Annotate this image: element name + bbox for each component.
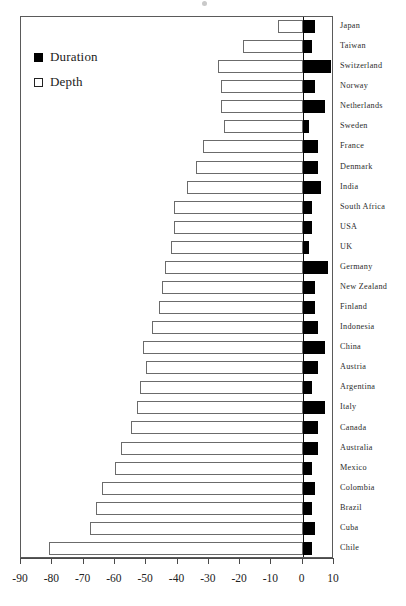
bar-row	[21, 278, 332, 298]
depth-bar	[137, 401, 303, 414]
category-label: Finland	[340, 302, 367, 311]
duration-bar	[303, 181, 322, 194]
x-tick	[270, 558, 271, 564]
legend-swatch-depth-icon	[34, 78, 43, 87]
depth-bar	[162, 281, 303, 294]
x-tick-label: -10	[263, 572, 278, 584]
x-tick-label: -80	[44, 572, 59, 584]
legend-label-duration: Duration	[50, 49, 98, 65]
bar-row	[21, 198, 332, 218]
bar-row	[21, 539, 332, 559]
depth-bar	[152, 321, 302, 334]
x-tick-label: -70	[75, 572, 90, 584]
legend-item-depth: Depth	[34, 72, 164, 92]
bar-row	[21, 519, 332, 539]
x-tick-label: 10	[327, 572, 339, 584]
category-label: Italy	[340, 402, 357, 411]
x-tick	[177, 558, 178, 564]
bar-row	[21, 439, 332, 459]
bar-row	[21, 338, 332, 358]
depth-bar	[146, 361, 303, 374]
category-label: Norway	[340, 81, 368, 90]
depth-bar	[218, 60, 303, 73]
bar-row	[21, 178, 332, 198]
depth-bar	[90, 522, 303, 535]
bar-row	[21, 218, 332, 238]
x-tick	[145, 558, 146, 564]
x-tick-label: -60	[106, 572, 121, 584]
category-label: Colombia	[340, 483, 375, 492]
x-tick-label: 0	[299, 572, 305, 584]
bar-row	[21, 398, 332, 418]
duration-bar	[303, 301, 316, 314]
category-label: India	[340, 182, 358, 191]
category-label: Indonesia	[340, 322, 375, 331]
duration-bar	[303, 401, 325, 414]
depth-bar	[187, 181, 303, 194]
page-artifact-speck	[202, 1, 207, 6]
depth-bar	[131, 421, 303, 434]
category-label: Netherlands	[340, 101, 383, 110]
duration-bar	[303, 421, 319, 434]
duration-bar	[303, 462, 312, 475]
category-label: Australia	[340, 443, 373, 452]
x-tick	[239, 558, 240, 564]
category-label: China	[340, 342, 361, 351]
bar-row	[21, 298, 332, 318]
category-label: Argentina	[340, 382, 375, 391]
bar-row	[21, 378, 332, 398]
chart-figure: JapanTaiwanSwitzerlandNorwayNetherlandsS…	[0, 0, 406, 606]
category-label: Chile	[340, 543, 359, 552]
duration-bar	[303, 542, 312, 555]
duration-bar	[303, 321, 319, 334]
duration-bar	[303, 120, 309, 133]
depth-bar	[96, 502, 303, 515]
category-label: Sweden	[340, 121, 368, 130]
duration-bar	[303, 341, 325, 354]
category-label: Japan	[340, 21, 360, 30]
depth-bar	[165, 261, 303, 274]
depth-bar	[49, 542, 303, 555]
duration-bar	[303, 40, 312, 53]
category-label: Austria	[340, 362, 366, 371]
bar-row	[21, 117, 332, 137]
duration-bar	[303, 522, 316, 535]
category-label: Switzerland	[340, 61, 382, 70]
depth-bar	[278, 20, 303, 33]
bar-row	[21, 318, 332, 338]
bar-row	[21, 258, 332, 278]
depth-bar	[143, 341, 303, 354]
category-label: New Zealand	[340, 282, 387, 291]
duration-bar	[303, 261, 328, 274]
x-tick	[333, 558, 334, 564]
depth-bar	[196, 161, 302, 174]
duration-bar	[303, 60, 331, 73]
duration-bar	[303, 100, 325, 113]
legend-swatch-duration-icon	[34, 53, 43, 62]
duration-bar	[303, 502, 312, 515]
depth-bar	[221, 100, 302, 113]
duration-bar	[303, 20, 316, 33]
duration-bar	[303, 381, 312, 394]
depth-bar	[102, 482, 302, 495]
category-axis-labels: JapanTaiwanSwitzerlandNorwayNetherlandsS…	[340, 16, 406, 558]
legend-item-duration: Duration	[34, 47, 164, 67]
duration-bar	[303, 361, 319, 374]
bar-row	[21, 158, 332, 178]
category-label: Mexico	[340, 463, 367, 472]
duration-bar	[303, 241, 309, 254]
duration-bar	[303, 80, 316, 93]
legend-label-depth: Depth	[50, 74, 83, 90]
category-label: France	[340, 141, 364, 150]
category-label: Canada	[340, 423, 366, 432]
bar-row	[21, 479, 332, 499]
category-label: Denmark	[340, 162, 373, 171]
x-tick	[208, 558, 209, 564]
x-tick	[51, 558, 52, 564]
depth-bar	[174, 201, 302, 214]
depth-bar	[171, 241, 302, 254]
x-tick-label: -20	[231, 572, 246, 584]
duration-bar	[303, 482, 316, 495]
category-label: USA	[340, 222, 357, 231]
category-label: Germany	[340, 262, 373, 271]
